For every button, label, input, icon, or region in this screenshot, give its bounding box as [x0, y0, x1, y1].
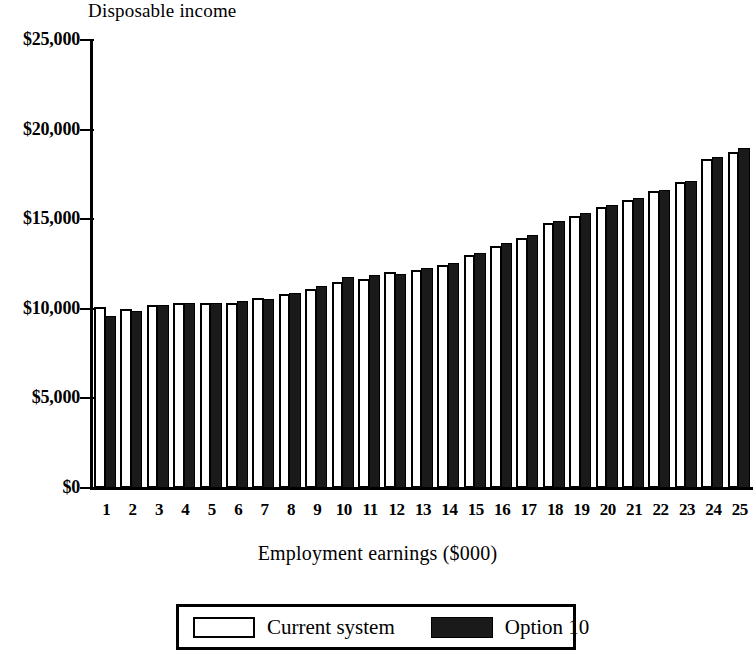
- y-tick-mark: [80, 218, 94, 220]
- bar-option-10: [105, 316, 117, 488]
- bar-option-10: [210, 303, 222, 488]
- bar-group: [569, 40, 595, 488]
- legend-label: Option 10: [505, 615, 590, 640]
- x-tick-label: 16: [488, 500, 516, 520]
- bar-option-10: [712, 157, 724, 488]
- bar-group: [648, 40, 674, 488]
- legend-swatch-current-system: [193, 617, 255, 638]
- x-tick-label: 25: [726, 500, 754, 520]
- bar-group: [543, 40, 569, 488]
- bar-group: [358, 40, 384, 488]
- legend-entry: Option 10: [431, 607, 590, 647]
- bar-current-system: [305, 289, 317, 488]
- y-tick-mark: [80, 39, 94, 41]
- bar-group: [332, 40, 358, 488]
- y-tick-mark: [80, 129, 94, 131]
- bar-current-system: [516, 238, 528, 488]
- bar-group: [596, 40, 622, 488]
- y-tick-mark: [80, 487, 94, 489]
- bar-option-10: [289, 293, 301, 488]
- bar-option-10: [342, 277, 354, 488]
- bar-group: [675, 40, 701, 488]
- bar-current-system: [543, 223, 555, 488]
- bar-group: [728, 40, 754, 488]
- bar-current-system: [252, 298, 264, 488]
- bar-option-10: [395, 274, 407, 488]
- x-tick-label: 3: [145, 500, 173, 520]
- bar-group: [437, 40, 463, 488]
- bar-option-10: [184, 303, 196, 488]
- x-tick-label: 19: [567, 500, 595, 520]
- bar-option-10: [157, 305, 169, 488]
- x-tick-label: 1: [92, 500, 120, 520]
- x-tick-label: 11: [356, 500, 384, 520]
- y-tick-label: $0: [2, 477, 80, 498]
- bar-option-10: [659, 190, 671, 488]
- bar-current-system: [648, 191, 660, 488]
- y-tick-mark: [80, 308, 94, 310]
- bar-current-system: [675, 182, 687, 488]
- bar-option-10: [448, 263, 460, 488]
- y-tick-label: $20,000: [2, 119, 80, 140]
- bar-current-system: [384, 272, 396, 488]
- bar-option-10: [421, 268, 433, 488]
- bar-option-10: [580, 213, 592, 488]
- legend-swatch-option-10: [431, 617, 493, 638]
- bar-option-10: [633, 198, 645, 488]
- x-axis-title: Employment earnings ($000): [0, 542, 755, 565]
- bar-current-system: [94, 307, 106, 488]
- x-tick-label: 17: [515, 500, 543, 520]
- chart-figure: Disposable income $0$5,000$10,000$15,000…: [0, 0, 755, 658]
- bar-current-system: [596, 207, 608, 488]
- y-tick-label: $5,000: [2, 387, 80, 408]
- x-tick-label: 7: [251, 500, 279, 520]
- bar-group: [252, 40, 278, 488]
- x-tick-label: 15: [462, 500, 490, 520]
- chart-legend: Current systemOption 10: [176, 604, 576, 650]
- bar-current-system: [226, 303, 238, 488]
- x-tick-label: 9: [303, 500, 331, 520]
- x-tick-label: 8: [277, 500, 305, 520]
- x-tick-label: 24: [699, 500, 727, 520]
- x-tick-label: 2: [119, 500, 147, 520]
- bar-current-system: [728, 152, 740, 488]
- bar-current-system: [490, 246, 502, 488]
- bar-current-system: [200, 303, 212, 488]
- bar-group: [226, 40, 252, 488]
- x-tick-label: 20: [594, 500, 622, 520]
- bar-group: [147, 40, 173, 488]
- bar-group: [411, 40, 437, 488]
- bar-current-system: [147, 305, 159, 488]
- bar-option-10: [237, 301, 249, 488]
- x-tick-label: 12: [383, 500, 411, 520]
- plot-area: [93, 40, 753, 488]
- x-tick-label: 13: [409, 500, 437, 520]
- x-tick-label: 10: [330, 500, 358, 520]
- x-tick-label: 5: [198, 500, 226, 520]
- bar-option-10: [685, 181, 697, 488]
- bar-group: [279, 40, 305, 488]
- bar-current-system: [569, 216, 581, 488]
- bar-group: [173, 40, 199, 488]
- bar-current-system: [701, 159, 713, 488]
- y-axis-title: Disposable income: [88, 0, 237, 22]
- bar-group: [464, 40, 490, 488]
- bar-option-10: [131, 311, 143, 488]
- legend-entry: Current system: [193, 607, 395, 647]
- bar-option-10: [553, 221, 565, 488]
- bar-option-10: [474, 253, 486, 488]
- y-tick-mark: [80, 397, 94, 399]
- bar-current-system: [173, 303, 185, 488]
- bar-current-system: [437, 265, 449, 488]
- x-tick-label: 6: [224, 500, 252, 520]
- bar-current-system: [464, 255, 476, 488]
- bar-group: [94, 40, 120, 488]
- bar-option-10: [263, 299, 275, 488]
- x-tick-label: 14: [435, 500, 463, 520]
- bar-option-10: [606, 205, 618, 488]
- bar-current-system: [332, 282, 344, 488]
- bar-group: [384, 40, 410, 488]
- bar-current-system: [622, 200, 634, 488]
- bar-current-system: [279, 294, 291, 488]
- bar-group: [490, 40, 516, 488]
